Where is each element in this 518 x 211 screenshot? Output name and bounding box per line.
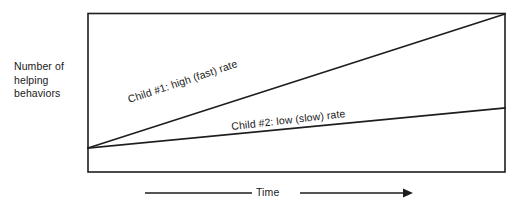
arrow-right-icon <box>403 189 413 198</box>
x-axis-label: Time <box>256 186 279 198</box>
y-axis-label: Number of helping behaviors <box>14 60 86 101</box>
chart-plot-area <box>0 0 518 211</box>
figure-container: Number of helping behaviors Child #1: hi… <box>0 0 518 211</box>
